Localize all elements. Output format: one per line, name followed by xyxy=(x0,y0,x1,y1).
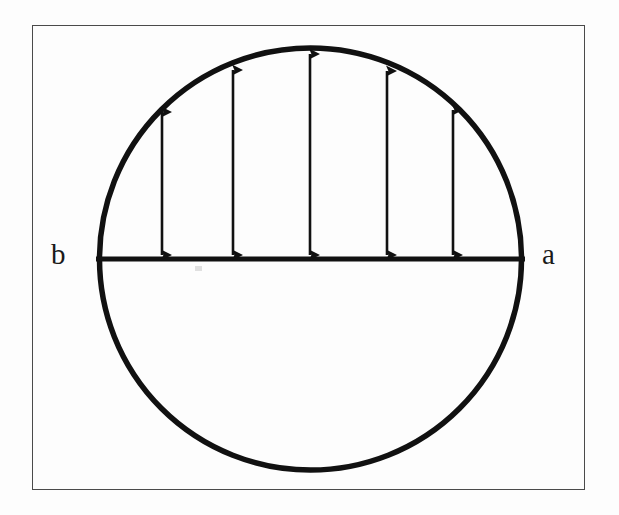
scan-smudge-artifact xyxy=(195,266,202,271)
chord-arrows-group xyxy=(162,54,453,255)
diameter-label-a: a xyxy=(542,240,555,269)
figure-page: b a xyxy=(0,0,619,515)
circle-diagram-svg xyxy=(0,0,619,515)
diameter-label-b: b xyxy=(51,240,66,269)
